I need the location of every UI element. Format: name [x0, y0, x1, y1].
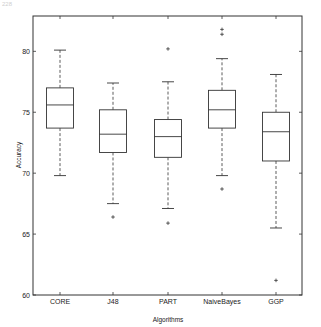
outlier-marker — [111, 215, 115, 219]
box-ggp — [263, 74, 290, 282]
outlier-marker — [166, 221, 170, 225]
y-tick-label: 80 — [22, 48, 30, 55]
y-tick-label: 75 — [22, 109, 30, 116]
outlier-marker — [220, 32, 224, 36]
outlier-marker — [274, 279, 278, 283]
iqr-box — [47, 88, 74, 128]
box-series — [47, 28, 290, 283]
box-core — [47, 50, 74, 175]
x-tick-label: J48 — [107, 298, 118, 305]
box-part — [155, 47, 182, 225]
outlier-marker — [220, 28, 224, 32]
outlier-marker — [166, 47, 170, 51]
y-axis: 6065707580 — [22, 48, 302, 299]
iqr-box — [155, 120, 182, 158]
x-axis: COREJ48PARTNaiveBayesGGP — [50, 16, 284, 306]
y-axis-title: Accuracy — [15, 141, 23, 168]
box-j48 — [100, 83, 127, 219]
x-axis-title: Algorithms — [153, 316, 184, 324]
y-tick-label: 65 — [22, 231, 30, 238]
iqr-box — [263, 112, 290, 161]
box-naivebayes — [209, 28, 236, 191]
iqr-box — [209, 90, 236, 128]
box-plot: 6065707580 COREJ48PARTNaiveBayesGGP Algo… — [0, 0, 321, 327]
y-tick-label: 70 — [22, 170, 30, 177]
x-tick-label: PART — [159, 298, 178, 305]
x-tick-label: CORE — [50, 298, 71, 305]
outlier-marker — [220, 187, 224, 191]
y-tick-label: 60 — [22, 292, 30, 299]
iqr-box — [100, 110, 127, 153]
x-tick-label: NaiveBayes — [203, 298, 241, 306]
x-tick-label: GGP — [268, 298, 284, 305]
